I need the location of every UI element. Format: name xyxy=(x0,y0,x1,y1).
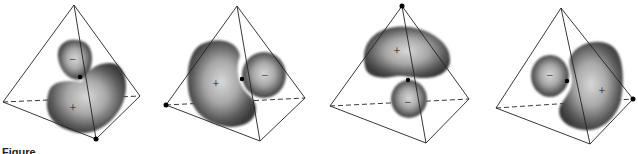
lobes xyxy=(47,40,126,133)
panel-2: + − xyxy=(164,6,306,141)
panel-4: − + xyxy=(496,8,636,144)
nucleus-dot xyxy=(78,75,82,79)
sign-negative: − xyxy=(70,52,77,66)
sign-positive: + xyxy=(70,101,77,115)
svg-text:+: + xyxy=(213,77,220,91)
svg-text:+: + xyxy=(599,84,606,98)
vertex-dot xyxy=(94,137,99,142)
svg-text:−: − xyxy=(262,68,269,82)
svg-text:−: − xyxy=(547,68,554,82)
svg-text:−: − xyxy=(405,95,412,109)
panel-1: − + xyxy=(3,5,140,142)
panel-3: + − xyxy=(330,4,469,144)
svg-text:+: + xyxy=(394,44,401,58)
orbital-figure: − + + − xyxy=(0,0,638,154)
figure-caption: Figure xyxy=(2,146,36,154)
lobe-positive xyxy=(559,42,623,130)
